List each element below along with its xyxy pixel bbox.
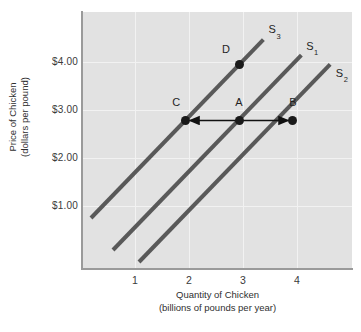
- supply-curve-s1: [111, 53, 302, 251]
- point-label-c: C: [172, 96, 180, 108]
- x-axis-line: [81, 268, 353, 270]
- curve-label-letter: S: [306, 40, 313, 52]
- gridline-vertical-2: [189, 12, 190, 268]
- y-tick-label-3: $3.00: [32, 104, 78, 115]
- point-marker-a: [235, 116, 244, 125]
- gridline-horizontal-4: [83, 62, 352, 63]
- y-axis-tick-labels: $4.00 $3.00 $2.00 $1.00: [28, 0, 78, 280]
- supply-curve-chart: CABD S3S1S2 $4.00 $3.00 $2.00 $1.00 1 2 …: [0, 0, 361, 332]
- gridline-horizontal-2: [83, 158, 352, 159]
- plot-area: CABD S3S1S2: [83, 12, 352, 268]
- y-axis-title-units: (dollars per pound): [19, 42, 31, 192]
- y-tick-label-4: $4.00: [32, 56, 78, 67]
- point-marker-c: [181, 116, 190, 125]
- point-label-b: B: [289, 96, 296, 108]
- x-tick-label-2: 2: [177, 274, 201, 286]
- x-axis-title-units: (billions of pounds per year): [83, 301, 352, 314]
- x-axis-title-main: Quantity of Chicken: [83, 288, 352, 301]
- y-axis-title: Price of Chicken (dollars per pound): [7, 42, 31, 192]
- y-tick-label-2: $2.00: [32, 152, 78, 163]
- x-tick-label-3: 3: [231, 274, 255, 286]
- y-axis-title-main: Price of Chicken: [7, 42, 19, 192]
- x-axis-title: Quantity of Chicken (billions of pounds …: [83, 288, 352, 314]
- point-label-d: D: [222, 43, 230, 55]
- gridline-vertical-3: [243, 12, 244, 268]
- curve-label-letter: S: [336, 67, 343, 79]
- x-tick-label-1: 1: [123, 274, 147, 286]
- gridline-horizontal-1: [83, 206, 352, 207]
- gridline-vertical-4: [297, 12, 298, 268]
- curve-label-subscript: 1: [314, 48, 318, 57]
- point-marker-b: [288, 116, 297, 125]
- y-axis-line: [81, 11, 83, 269]
- curve-label-subscript: 2: [344, 75, 348, 84]
- point-marker-d: [235, 60, 244, 69]
- supply-curve-s2: [138, 63, 332, 263]
- curve-label-subscript: 3: [276, 32, 280, 41]
- gridline-horizontal-3: [83, 110, 352, 111]
- curve-label-s1: S1: [306, 40, 318, 55]
- curve-label-letter: S: [269, 23, 276, 35]
- point-label-a: A: [235, 96, 242, 108]
- x-tick-label-4: 4: [285, 274, 309, 286]
- y-tick-label-1: $1.00: [32, 200, 78, 211]
- curve-label-s3: S3: [269, 23, 281, 38]
- curve-label-s2: S2: [336, 67, 348, 82]
